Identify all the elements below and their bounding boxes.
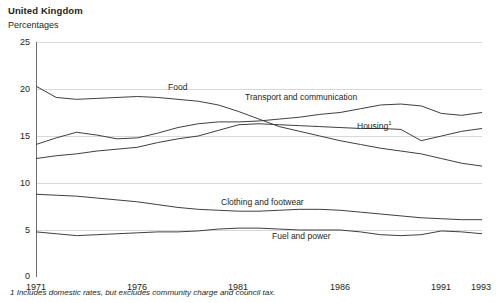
- series-label-housing-text: Housing: [357, 121, 388, 131]
- series-label-fuel: Fuel and power: [272, 231, 331, 241]
- page-title: United Kingdom: [8, 5, 83, 16]
- footnote-marker: 1: [388, 120, 391, 126]
- x-tick-1986: 1986: [320, 282, 360, 292]
- line-chart: [36, 42, 482, 277]
- y-tick-5: 5: [6, 225, 30, 235]
- series-label-clothing: Clothing and footwear: [221, 197, 304, 207]
- y-tick-10: 10: [6, 178, 30, 188]
- series-label-food: Food: [168, 82, 187, 92]
- y-tick-0: 0: [6, 271, 30, 281]
- series-line-fuel-and-power: [36, 228, 482, 236]
- y-tick-25: 25: [6, 37, 30, 47]
- series-label-housing: Housing1: [357, 120, 392, 131]
- chart-subtitle: Percentages: [8, 20, 59, 30]
- y-tick-15: 15: [6, 131, 30, 141]
- series-label-transport: Transport and communication: [245, 92, 357, 102]
- chart-footnote: 1 Includes domestic rates, but excludes …: [10, 288, 275, 297]
- x-tick-1991: 1991: [421, 282, 461, 292]
- plot-area: [36, 42, 482, 277]
- y-tick-20: 20: [6, 84, 30, 94]
- x-tick-1993: 1993: [461, 282, 496, 292]
